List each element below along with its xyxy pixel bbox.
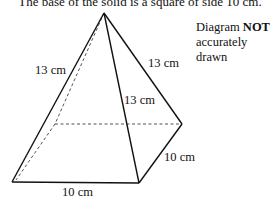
visible-edges <box>12 13 182 183</box>
edge-apex-frontleft <box>12 13 104 182</box>
edge-base-front <box>12 182 139 183</box>
label-right-edge: 13 cm <box>148 56 179 71</box>
label-base-right: 10 cm <box>164 150 195 165</box>
label-left-edge: 13 cm <box>35 63 66 78</box>
label-base-front: 10 cm <box>62 185 93 200</box>
label-front-edge: 13 cm <box>124 93 155 108</box>
hidden-edges <box>16 13 182 180</box>
hidden-edge-left-base <box>16 124 55 180</box>
